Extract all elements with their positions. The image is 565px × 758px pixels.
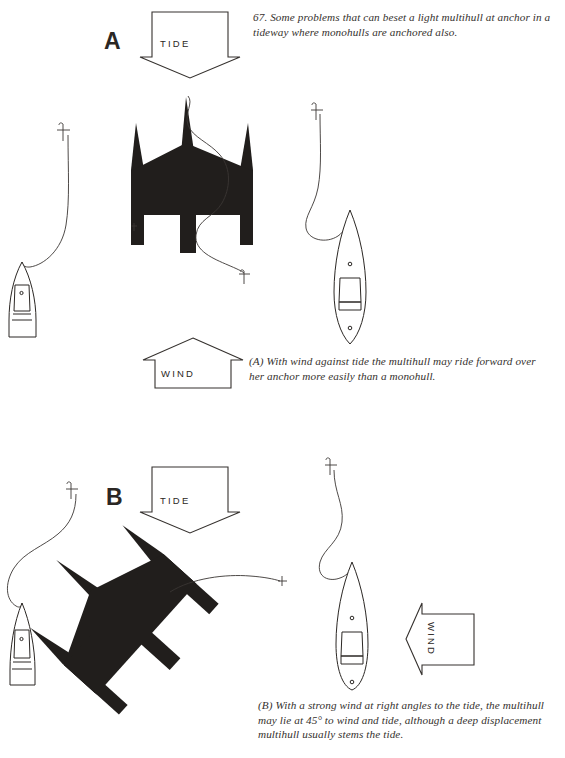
wind-arrow-label-panel-a: WIND [161, 368, 195, 379]
anchor-rode-multihull-panel-b [168, 572, 298, 612]
monohull-right-panel-b [300, 452, 400, 692]
figure-page: 67. Some problems that can beset a light… [0, 0, 565, 758]
panel-letter-b: B [106, 484, 123, 511]
wind-arrow-up-panel-a [141, 336, 245, 388]
monohull-right-panel-a [298, 96, 398, 346]
panel-b-caption: (B) With a strong wind at right angles t… [258, 698, 558, 742]
tide-arrow-label-panel-b: TIDE [160, 495, 190, 506]
anchor-rode-multihull-panel-a [180, 93, 270, 293]
panel-letter-a: A [104, 28, 121, 55]
figure-main-caption: 67. Some problems that can beset a light… [253, 10, 553, 39]
panel-a-caption: (A) With wind against tide the multihull… [249, 354, 549, 383]
wind-arrow-left-panel-b [404, 601, 476, 677]
tide-arrow-label-panel-a: TIDE [160, 38, 190, 49]
wind-arrow-label-panel-b: WIND [426, 622, 437, 656]
monohull-left-panel-a [2, 115, 102, 340]
